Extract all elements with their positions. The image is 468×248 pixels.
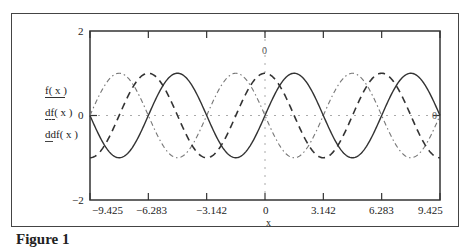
y-tick-bottom: −2 <box>72 194 84 206</box>
legend-label: f( x ) <box>45 84 67 96</box>
x-tick-label: −6.283 <box>136 204 167 216</box>
legend-item-df: df( x ) <box>45 106 73 118</box>
y-tick-top: 2 <box>78 25 84 37</box>
x-tick-label: 0 <box>263 204 269 216</box>
legend-item-f: f( x ) <box>45 84 67 96</box>
legend-line-dashdot-icon <box>45 141 53 142</box>
x-tick-label: 3.142 <box>311 204 336 216</box>
x-tick-label: −3.142 <box>196 204 227 216</box>
x-tick-label: 6.283 <box>369 204 394 216</box>
x-axis-label: x <box>266 217 271 228</box>
legend-line-dashed-icon <box>45 119 55 120</box>
x-tick-label: −9.425 <box>92 204 123 216</box>
x-tick-label: 9.425 <box>418 204 443 216</box>
legend-label: df( x ) <box>45 106 73 118</box>
legend-line-solid-icon <box>45 97 65 98</box>
top-zero-marker: 0 <box>262 45 267 56</box>
y-tick-zero: 0 <box>78 109 84 121</box>
figure-caption: Figure 1 <box>16 231 69 248</box>
legend-label: ddf( x ) <box>45 128 78 140</box>
legend-item-ddf: ddf( x ) <box>45 128 78 140</box>
right-zero-marker: 0 <box>432 110 437 121</box>
